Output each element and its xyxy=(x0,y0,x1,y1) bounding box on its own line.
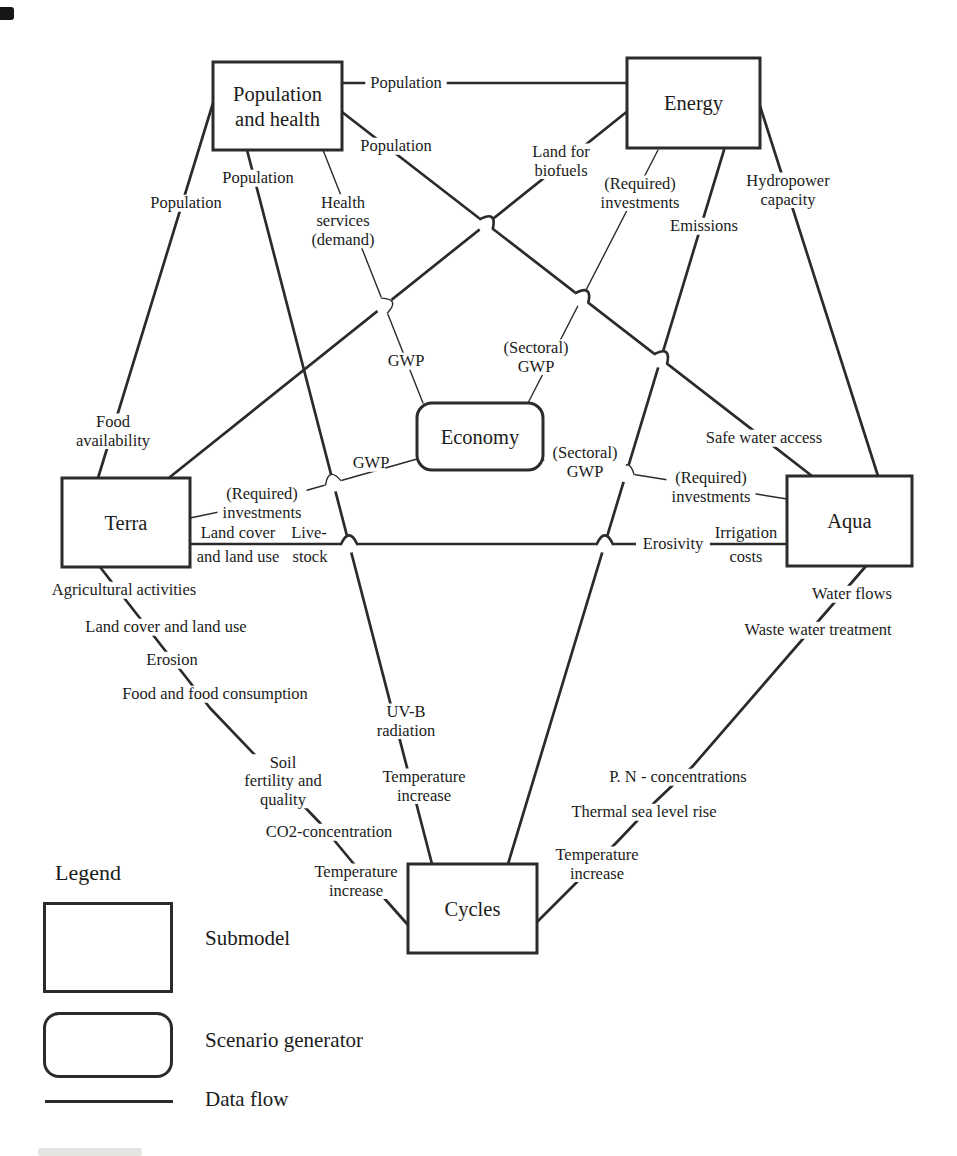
node-title: Energy xyxy=(664,92,724,115)
edge-label: Temperatureincrease xyxy=(379,767,468,805)
edge-label: Land cover xyxy=(197,523,279,542)
edge-energy_cycles xyxy=(508,150,724,864)
node-box xyxy=(213,62,342,150)
submodel-population: Populationand health xyxy=(213,62,342,150)
edge-label-text: Population xyxy=(360,136,432,155)
diagram-canvas: PopulationPopulationFoodavailabilityPopu… xyxy=(0,0,957,1156)
edge-label-text: Land cover xyxy=(201,523,276,542)
edge-energy_aqua xyxy=(760,106,878,476)
scan-artifact-top-left xyxy=(0,7,14,20)
edge-label: Population xyxy=(355,136,437,155)
edge-label: Temperatureincrease xyxy=(311,862,400,900)
edge-label-text: costs xyxy=(730,547,763,566)
edge-label: P. N - concentrations xyxy=(596,767,761,786)
edge-label-text: Erosion xyxy=(146,650,197,669)
hop-gap xyxy=(596,535,614,553)
submodel-energy: Energy xyxy=(627,58,760,148)
edge-label-text: CO2-concentration xyxy=(266,822,392,841)
edge-label: Erosion xyxy=(143,650,202,669)
edge-label: Foodavailability xyxy=(65,412,162,450)
edge-label: Hydropowercapacity xyxy=(746,171,830,209)
edge-label-text: Thermal sea level rise xyxy=(571,802,716,821)
edge-label-text: (Required)investments xyxy=(672,468,751,506)
edge-label: Land forbiofuels xyxy=(528,142,594,180)
edge-label-text: Waste water treatment xyxy=(744,620,892,639)
edge-label: Population xyxy=(217,168,299,187)
edge-label: Live- xyxy=(287,523,331,542)
edge-label-text: Irrigation xyxy=(715,523,777,542)
edge-label: Emissions xyxy=(667,216,741,235)
edge-label: Land cover and land use xyxy=(76,617,256,636)
edge-label-text: Population xyxy=(370,73,442,92)
edge-label: CO2-concentration xyxy=(262,822,396,841)
node-title: Terra xyxy=(105,512,148,534)
node-title: Economy xyxy=(441,426,520,449)
edge-label-text: GWP xyxy=(353,453,390,472)
edge-label-text: P. N - concentrations xyxy=(609,767,746,786)
edge-label: UV-Bradiation xyxy=(369,702,443,740)
hop-gap xyxy=(324,474,342,492)
edge-label: Waste water treatment xyxy=(736,620,901,639)
scan-artifact-caption-cutoff xyxy=(38,1148,142,1156)
edge-label: Thermal sea level rise xyxy=(558,802,730,821)
edge-label: Irrigation xyxy=(705,523,787,542)
hop-gap xyxy=(340,535,358,553)
edge-label-text: Agricultural activities xyxy=(52,580,196,599)
edge-label-text: GWP xyxy=(388,351,425,370)
edge-label: Healthservices(demand) xyxy=(310,193,376,249)
submodel-cycles: Cycles xyxy=(408,864,537,953)
edge-label-text: Erosivity xyxy=(643,534,704,553)
submodel-terra: Terra xyxy=(62,478,190,567)
scenario-generator-economy: Economy xyxy=(417,403,543,470)
edge-label-text: Emissions xyxy=(670,216,738,235)
edge-label-text: Food and food consumption xyxy=(122,684,308,703)
edge-label-text: Population xyxy=(222,168,294,187)
node-title: Cycles xyxy=(445,898,501,921)
edge-label-text: (Required)investments xyxy=(601,174,680,212)
edge-label-text: and land use xyxy=(197,547,279,566)
submodel-aqua: Aqua xyxy=(787,476,912,566)
edge-label: Temperatureincrease xyxy=(552,845,641,883)
edge-label-text: Population xyxy=(150,193,222,212)
edge-label-text: Land forbiofuels xyxy=(532,142,590,180)
edge-label-text: Live- xyxy=(291,523,327,542)
edge-label: (Required)investments xyxy=(666,468,755,506)
edge-label-text: Land cover and land use xyxy=(85,617,246,636)
edge-label: costs xyxy=(724,547,768,566)
edge-label: Erosivity xyxy=(636,534,710,553)
hop-gap xyxy=(375,297,393,315)
edge-label: (Required)investments xyxy=(217,484,306,521)
edge-label: (Required)investments xyxy=(595,174,684,212)
edge-label: Safe water access xyxy=(697,428,831,447)
edge-label: (Sectoral)GWP xyxy=(495,338,577,376)
node-title: Aqua xyxy=(827,510,871,533)
edge-label: Population xyxy=(365,73,447,92)
edge-label: (Sectoral)GWP xyxy=(544,443,626,481)
edge-label: Soilfertility andquality xyxy=(231,753,335,809)
edge-label-text: Safe water access xyxy=(706,428,822,447)
edge-label: GWP xyxy=(388,351,425,370)
edge-label-text: (Required)investments xyxy=(223,484,302,521)
model-structure-diagram: PopulationPopulationFoodavailabilityPopu… xyxy=(0,0,957,1156)
edge-label: Food and food consumption xyxy=(118,684,313,703)
edge-label: Water flows xyxy=(807,584,896,603)
edge-label-text: Water flows xyxy=(812,584,892,603)
edge-label: stock xyxy=(288,547,332,566)
edge-label: GWP xyxy=(353,453,390,472)
edge-label: and land use xyxy=(190,547,287,566)
edge-label-text: stock xyxy=(293,547,329,566)
edge-label: Agricultural activities xyxy=(34,580,214,599)
edge-label: Population xyxy=(145,193,227,212)
